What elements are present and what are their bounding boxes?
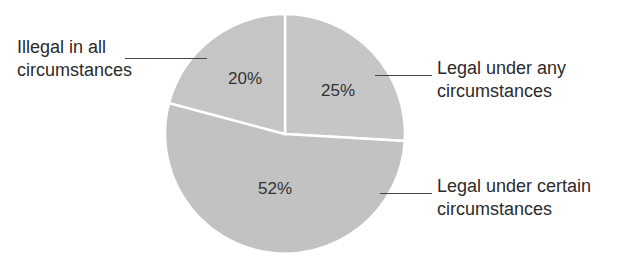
label-legal-any: Legal under any circumstances <box>437 57 566 103</box>
label-illegal-all: Illegal in all circumstances <box>17 36 132 82</box>
label-illegal-all-line1: Illegal in all <box>17 36 132 59</box>
leader-line-legal-certain <box>380 193 432 194</box>
label-legal-certain: Legal under certain circumstances <box>437 175 591 221</box>
leader-line-legal-any <box>375 75 432 76</box>
label-legal-certain-line1: Legal under certain <box>437 175 591 198</box>
leader-line-illegal-all <box>125 58 207 59</box>
pct-legal-any: 25% <box>321 81 355 101</box>
pct-illegal-all: 20% <box>228 69 262 89</box>
label-legal-any-line2: circumstances <box>437 80 566 103</box>
label-legal-any-line1: Legal under any <box>437 57 566 80</box>
slice-legal-any <box>285 14 405 141</box>
pct-legal-certain: 52% <box>258 179 292 199</box>
label-illegal-all-line2: circumstances <box>17 59 132 82</box>
label-legal-certain-line2: circumstances <box>437 198 591 221</box>
